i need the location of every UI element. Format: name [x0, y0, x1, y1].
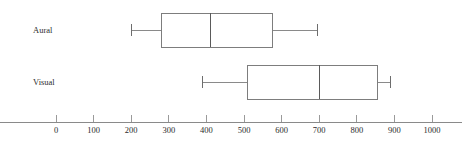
x-axis: 01002003004005006007008009001000: [0, 115, 462, 135]
boxplot-svg: Aural Visual 010020030040050060070080090…: [0, 0, 471, 159]
axis-tick-label-600: 600: [275, 125, 288, 135]
box-plot-aural: [131, 13, 317, 47]
axis-tick-label-700: 700: [313, 125, 326, 135]
axis-tick-label-400: 400: [200, 125, 213, 135]
box-iqr: [248, 65, 378, 99]
axis-tick-label-1000: 1000: [424, 125, 441, 135]
axis-tick-label-800: 800: [350, 125, 363, 135]
boxplot-chart: Aural Visual 010020030040050060070080090…: [0, 0, 471, 159]
box-plot-visual: [203, 65, 391, 99]
axis-tick-label-900: 900: [388, 125, 401, 135]
box-plots-layer: [131, 13, 390, 99]
category-label-visual: Visual: [33, 77, 55, 87]
axis-tick-label-100: 100: [87, 125, 100, 135]
axis-tick-label-300: 300: [162, 125, 175, 135]
category-labels: Aural Visual: [33, 25, 55, 87]
box-iqr: [161, 13, 272, 47]
axis-tick-label-500: 500: [238, 125, 251, 135]
category-label-aural: Aural: [33, 25, 53, 35]
axis-tick-label-200: 200: [125, 125, 138, 135]
axis-tick-label-0: 0: [54, 125, 58, 135]
